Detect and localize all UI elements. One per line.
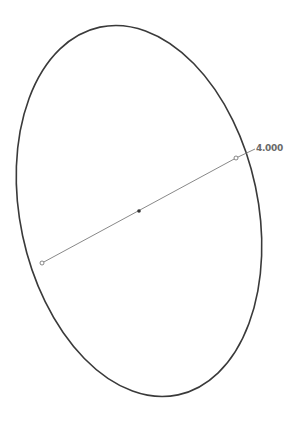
endpoint-handle-left[interactable] [40, 261, 44, 265]
dimension-label[interactable]: 4.000 [256, 143, 283, 153]
center-point[interactable] [137, 209, 141, 213]
ellipse-shape[interactable] [0, 2, 294, 419]
sketch-canvas[interactable] [0, 0, 298, 424]
endpoint-handle-right[interactable] [234, 156, 238, 160]
